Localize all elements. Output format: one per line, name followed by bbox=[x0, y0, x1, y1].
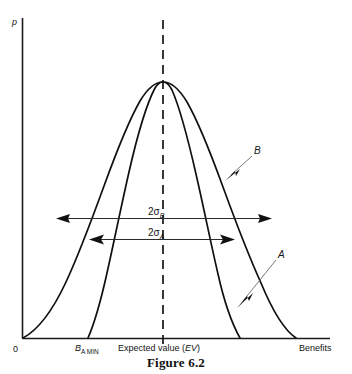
origin-label: 0 bbox=[13, 344, 18, 354]
x-tick-label-sub: A MIN bbox=[81, 348, 99, 355]
distribution-chart: p 0 BA MIN Expected value (EV) Benefits … bbox=[0, 0, 352, 374]
two-sigma-a-sub: A bbox=[159, 233, 165, 240]
two-sigma-a-label: 2σA bbox=[148, 227, 165, 240]
curve-b-label: B bbox=[254, 145, 261, 156]
two-sigma-b-sub: B bbox=[160, 212, 165, 219]
svg-text:BA MIN: BA MIN bbox=[75, 343, 99, 355]
x-center-caption-close: ) bbox=[197, 343, 200, 353]
figure-caption: Figure 6.2 bbox=[0, 355, 352, 371]
x-tick-b-a-min: BA MIN bbox=[75, 343, 99, 355]
y-axis-label: p bbox=[11, 17, 17, 27]
curve-a-path bbox=[88, 82, 240, 338]
two-sigma-a-main: 2σ bbox=[148, 227, 161, 238]
curve-b-callout bbox=[225, 156, 252, 181]
x-axis-center-caption: Expected value (EV) bbox=[118, 343, 200, 353]
two-sigma-b-main: 2σ bbox=[148, 206, 161, 217]
x-axis-right-label: Benefits bbox=[299, 343, 332, 353]
curve-a-callout bbox=[237, 260, 276, 308]
figure-container: p 0 BA MIN Expected value (EV) Benefits … bbox=[0, 0, 352, 374]
x-center-caption-main: Expected value ( bbox=[118, 343, 185, 353]
svg-text:Expected value (EV): Expected value (EV) bbox=[118, 343, 200, 353]
curve-a-label: A bbox=[277, 249, 285, 260]
